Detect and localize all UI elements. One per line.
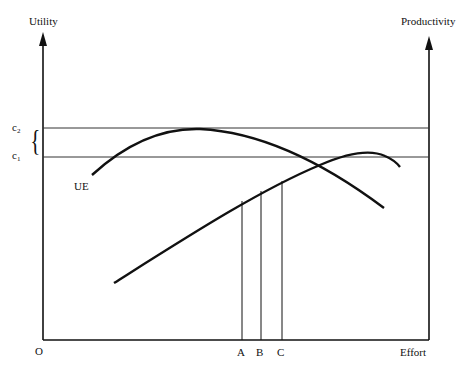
effort-axis-label: Effort xyxy=(400,347,426,358)
c-range-brace-icon: { xyxy=(30,125,40,155)
c2-label: c2 xyxy=(12,122,20,135)
productivity-curve xyxy=(114,153,400,283)
ue-curve-label: UE xyxy=(74,181,89,192)
effort-point-c-label: C xyxy=(277,347,284,358)
productivity-axis-arrow-icon xyxy=(425,36,433,50)
effort-point-b-label: B xyxy=(256,347,263,358)
c2-label-sub: 2 xyxy=(17,127,21,135)
utility-axis-label: Utility xyxy=(29,16,58,27)
origin-label: O xyxy=(35,346,43,357)
effort-point-a-label: A xyxy=(237,347,245,358)
c1-label: c1 xyxy=(12,150,20,163)
utility-productivity-diagram xyxy=(0,0,459,372)
ue-curve xyxy=(92,129,384,208)
productivity-axis-label: Productivity xyxy=(401,16,455,27)
utility-axis-arrow-icon xyxy=(39,32,47,46)
c1-label-sub: 1 xyxy=(17,155,21,163)
